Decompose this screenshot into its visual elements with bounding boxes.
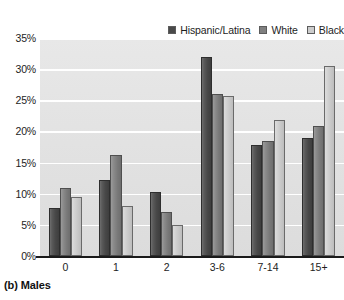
gridline [40,69,344,71]
gridline [40,38,344,40]
x-axis: 0123-67-1415+ [40,261,344,277]
plot-area [40,38,344,256]
bar [223,96,234,256]
legend-swatch-black [307,26,315,34]
y-tick-label: 35% [0,32,36,44]
y-tick-label: 30% [0,63,36,75]
legend-label: Hispanic/Latina [180,24,250,36]
bar [313,126,324,256]
bar [110,155,121,256]
gridline [40,100,344,102]
y-tick-label: 5% [0,219,36,231]
bar [150,192,161,256]
y-tick-label: 25% [0,94,36,106]
bar [251,145,262,256]
y-tick-label: 15% [0,157,36,169]
bar [71,197,82,256]
legend-entry: Hispanic/Latina [168,24,250,36]
gridline [40,194,344,196]
y-tick-label: 0% [0,250,36,262]
x-tick-label: 1 [113,261,119,273]
y-axis: 0%5%10%15%20%25%30%35% [0,0,36,300]
legend-swatch-hispanic-latina [168,26,176,34]
bar [274,120,285,256]
bar [99,180,110,256]
x-tick-label: 0 [62,261,68,273]
legend-entry: White [259,24,297,36]
chart-legend: Hispanic/LatinaWhiteBlack [150,22,344,38]
x-tick-label: 7-14 [257,261,278,273]
legend-entry: Black [307,24,344,36]
legend-swatch-white [259,26,267,34]
y-tick-label: 10% [0,188,36,200]
bar [122,206,133,256]
gridline [40,131,344,133]
x-tick-label: 2 [164,261,170,273]
y-tick-label: 20% [0,125,36,137]
x-tick-label: 15+ [310,261,328,273]
legend-label: Black [319,24,344,36]
x-tick-label: 3-6 [210,261,225,273]
bar [161,212,172,256]
bar [49,208,60,256]
gridline [40,163,344,165]
bar [212,94,223,256]
bar-chart-figure: Hispanic/LatinaWhiteBlack 0%5%10%15%20%2… [0,0,344,300]
gridline [40,225,344,227]
bar [324,66,335,256]
bar [60,188,71,257]
figure-caption: (b) Males [4,279,51,291]
bar [201,57,212,256]
legend-label: White [271,24,297,36]
bar [302,138,313,256]
bar [262,141,273,256]
bar [172,225,183,256]
x-axis-line [36,256,344,258]
